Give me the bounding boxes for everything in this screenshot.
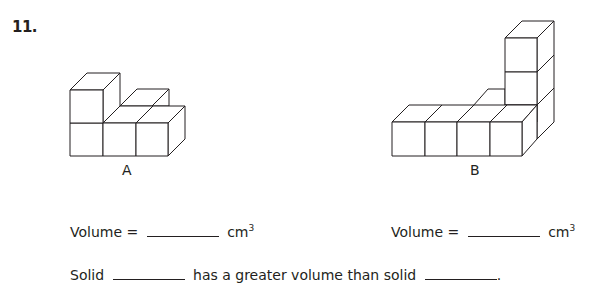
unit-exponent: 3 bbox=[570, 223, 576, 233]
volume-b-answer-blank[interactable] bbox=[468, 235, 540, 237]
cube-solids-figure bbox=[0, 0, 592, 305]
unit-exponent: 3 bbox=[249, 223, 255, 233]
unit-label: cm bbox=[227, 224, 248, 240]
volume-line-b: Volume = cm3 bbox=[391, 223, 575, 240]
volume-line-a: Volume = cm3 bbox=[70, 223, 254, 240]
unit-label: cm bbox=[548, 224, 569, 240]
volume-a-answer-blank[interactable] bbox=[147, 235, 219, 237]
comparison-period: . bbox=[497, 267, 501, 283]
comparison-part1: Solid bbox=[70, 267, 104, 283]
volume-prefix: Volume = bbox=[391, 224, 459, 240]
comparison-part2: has a greater volume than solid bbox=[193, 267, 416, 283]
solid-b-drawing bbox=[392, 21, 554, 156]
comparison-sentence: Solid has a greater volume than solid . bbox=[70, 267, 501, 283]
solid-a-drawing bbox=[70, 73, 185, 156]
solid-b-label: B bbox=[470, 162, 480, 178]
comparison-blank-1[interactable] bbox=[113, 278, 185, 280]
comparison-blank-2[interactable] bbox=[425, 278, 497, 280]
solid-a-label: A bbox=[122, 162, 132, 178]
volume-prefix: Volume = bbox=[70, 224, 138, 240]
